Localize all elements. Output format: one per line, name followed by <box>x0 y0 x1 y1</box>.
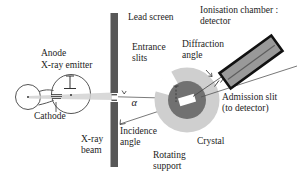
lead-screen-lower <box>111 102 119 167</box>
diagram-root: Lead screen Ionisation chamber : detecto… <box>0 0 297 186</box>
lead-screen <box>111 13 119 167</box>
ionisation-chamber-label: Ionisation chamber : detector <box>200 5 278 27</box>
admission-slit-label: Admission slit (to detector) <box>222 92 277 114</box>
anode-label: Anode <box>41 48 66 59</box>
rotating-support-label: Rotating support <box>153 150 186 172</box>
cathode-dot <box>27 96 29 98</box>
crystal-label: Crystal <box>197 136 224 147</box>
incidence-angle-arrow <box>122 91 126 95</box>
anode-dot <box>70 94 72 96</box>
cathode-label: Cathode <box>34 111 66 122</box>
lead-screen-upper <box>111 13 119 93</box>
incidence-angle-label: Incidence angle <box>120 126 157 148</box>
diffraction-angle-label: Diffraction angle <box>182 39 224 61</box>
x-ray-beam-label: X-ray beam <box>81 134 103 156</box>
slit-jaw-bottom <box>112 100 118 101</box>
lead-screen-label: Lead screen <box>128 12 174 23</box>
tube-neck-bottom <box>39 101 54 106</box>
slit-jaw-top <box>112 94 118 95</box>
x-ray-tube <box>16 75 113 114</box>
x-ray-emitter-label: X-ray emitter <box>41 60 92 71</box>
entrance-slits-label: Entrance slits <box>132 42 166 64</box>
alpha-symbol: α <box>132 97 138 108</box>
rotating-support <box>153 68 220 133</box>
